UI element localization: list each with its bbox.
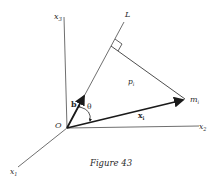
x3-axis-label: x3 [54,12,63,22]
x2-axis [67,126,199,128]
x1-axis [18,128,67,167]
vector-x-i [67,100,183,128]
line-L-label: L [124,10,130,19]
x1-axis-label: x1 [10,167,17,177]
perpendicular-p [111,46,185,99]
figure-43-diagram: x3 L pi mi b θ O xi x2 x1 Figure 43 [0,0,216,184]
origin-label: O [55,121,62,130]
angle-theta-label: θ [87,102,92,111]
point-m-label: mi [190,95,200,105]
figure-caption: Figure 43 [89,158,132,168]
distance-p-label: pi [128,77,135,87]
vector-x-label: xi [138,111,144,121]
x3-axis [64,17,67,128]
unit-vector-b-label: b [71,99,77,109]
x2-axis-label: x2 [199,122,206,132]
